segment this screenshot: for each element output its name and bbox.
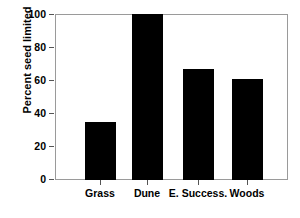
bar-grass (85, 122, 116, 180)
y-tick-mark-60 (49, 80, 54, 81)
y-tick-label-100: 100 (16, 9, 46, 19)
y-tick-mark-20 (49, 146, 54, 147)
bar-dune (132, 14, 163, 180)
x-axis-tick-labels: Grass Dune E. Success. Woods (55, 186, 288, 202)
y-tick-mark-100 (49, 14, 54, 15)
y-tick-label-60: 60 (16, 75, 46, 85)
y-tick-label-40: 40 (16, 108, 46, 118)
x-tick-mark-e-success (198, 180, 199, 185)
x-tick-mark-dune (147, 180, 148, 185)
bar-series (55, 14, 288, 180)
y-tick-mark-0 (49, 179, 54, 180)
y-axis-tick-labels: 100 80 60 40 20 0 (16, 0, 46, 218)
y-tick-label-20: 20 (16, 141, 46, 151)
bar-woods (232, 79, 263, 180)
x-tick-label-woods: Woods (217, 186, 277, 200)
y-tick-label-0: 0 (16, 174, 46, 184)
y-tick-mark-40 (49, 113, 54, 114)
x-tick-mark-grass (100, 180, 101, 185)
x-tick-mark-woods (247, 180, 248, 185)
y-tick-mark-80 (49, 47, 54, 48)
bar-e-success (183, 69, 214, 180)
bar-chart-figure: Percent seed limited 100 80 60 40 20 0 G… (0, 0, 300, 218)
y-tick-label-80: 80 (16, 42, 46, 52)
